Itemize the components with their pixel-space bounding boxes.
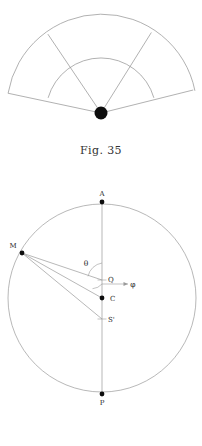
point-C-label: C <box>110 295 115 303</box>
vertex-dot <box>95 107 108 120</box>
figure-35-drawing <box>0 0 202 140</box>
point-C-dot <box>100 296 105 301</box>
figure-36-drawing: A M Q C S' P θ φ <box>0 180 202 420</box>
point-A-label: A <box>98 190 105 198</box>
figure-36: A M Q C S' P θ φ Fig. 36 <box>0 180 202 446</box>
point-A-dot <box>100 200 105 205</box>
angle-phi-arrowhead <box>124 282 129 286</box>
ray-left-outer <box>8 93 101 113</box>
inner-arc <box>48 58 154 98</box>
angle-phi-arc <box>93 284 103 289</box>
angle-phi-label: φ <box>130 280 135 289</box>
ray-right-inner <box>101 32 151 113</box>
ray-M-to-C <box>22 253 102 298</box>
point-Q-label: Q <box>108 276 114 284</box>
ray-right-outer <box>101 90 193 113</box>
ray-left-inner <box>48 34 101 113</box>
figure-35-caption: Fig. 35 <box>0 144 202 157</box>
point-S-prime-label: S' <box>108 316 115 324</box>
point-M-label: M <box>9 242 16 250</box>
point-P-label: P <box>100 399 105 407</box>
ray-M-to-S-prime <box>22 253 102 319</box>
angle-theta-arc <box>88 263 102 276</box>
point-P-dot <box>100 392 105 397</box>
outer-arc <box>8 14 195 93</box>
point-M-dot <box>20 251 25 256</box>
ray-M-to-Q <box>22 253 102 280</box>
angle-theta-label: θ <box>84 259 89 268</box>
figure-35: Fig. 35 <box>0 0 202 180</box>
